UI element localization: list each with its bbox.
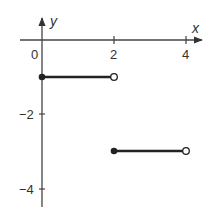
step-function-chart: 0 2 4 −2 −4 x y [0,0,209,220]
y-axis-label: y [49,13,58,29]
segment-2 [111,148,190,155]
y-tick-label-neg2: −2 [19,107,34,122]
x-tick-label-4: 4 [182,47,189,62]
closed-point [111,148,118,155]
segment-1 [39,74,118,81]
open-point [183,148,190,155]
x-tick-label-2: 2 [110,47,117,62]
x-tick-label-0: 0 [31,47,38,62]
x-axis-label: x [191,20,200,36]
open-point [111,74,118,81]
y-tick-label-neg4: −4 [19,182,34,197]
closed-point [39,74,46,81]
